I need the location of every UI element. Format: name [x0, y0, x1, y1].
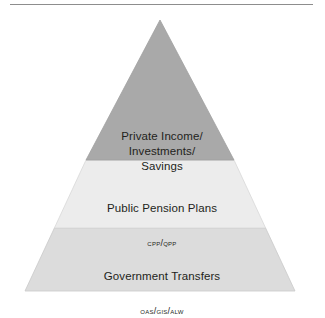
tier-bottom-title: Government Transfers — [22, 269, 302, 284]
tier-bottom-subtitle: OAS/GIS/ALW — [22, 306, 302, 318]
tier-top-title: Private Income/ Investments/ Savings — [62, 129, 262, 175]
pyramid-tier-bottom-label: Government Transfers OAS/GIS/ALW — [22, 248, 302, 318]
tier-middle-title: Public Pension Plans — [42, 201, 282, 216]
